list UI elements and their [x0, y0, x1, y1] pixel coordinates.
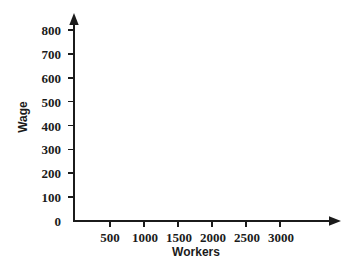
y-tick-label-300: 300	[28, 143, 61, 156]
y-tick-label-800: 800	[28, 24, 61, 37]
y-tick-label-600: 600	[28, 71, 61, 84]
x-tick-label-500: 500	[100, 231, 120, 244]
y-tick-label-500: 500	[28, 95, 61, 108]
x-axis-title: Workers	[172, 246, 220, 258]
x-tick-label-2500: 2500	[234, 231, 260, 244]
y-tick-label-400: 400	[28, 119, 61, 132]
y-tick-label-700: 700	[28, 48, 61, 61]
y-tick-label-0: 0	[28, 215, 61, 228]
plot-area	[74, 14, 341, 221]
x-tick-label-1500: 1500	[166, 231, 192, 244]
x-tick-label-1000: 1000	[132, 231, 158, 244]
y-tick-label-100: 100	[28, 191, 61, 204]
y-tick-label-200: 200	[28, 167, 61, 180]
x-tick-label-3000: 3000	[268, 231, 294, 244]
chart-figure: 0 100 200 300 400 500 600 700 800 500 10…	[0, 0, 355, 268]
y-axis-title: Wage	[17, 101, 29, 133]
x-tick-label-2000: 2000	[200, 231, 226, 244]
